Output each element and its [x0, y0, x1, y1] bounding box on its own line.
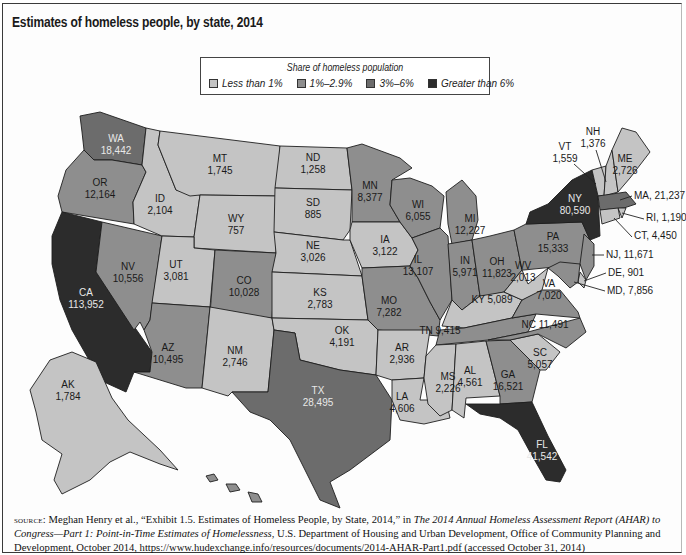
- state-abbr-nh: NH: [586, 126, 600, 137]
- state-abbr-nm: NM: [227, 345, 243, 356]
- state-abbr-wv: WV: [515, 260, 531, 271]
- state-abbr-nv: NV: [121, 261, 135, 272]
- state-value-ut: 3,081: [163, 271, 188, 282]
- state-value-ga: 16,521: [493, 381, 524, 392]
- state-hi: [206, 474, 262, 502]
- state-value-wa: 18,442: [101, 145, 132, 156]
- state-label-ky: KY 5,089: [472, 294, 513, 305]
- state-label-de: DE, 901: [608, 267, 645, 278]
- state-abbr-ut: UT: [169, 259, 182, 270]
- state-value-ny: 80,590: [560, 205, 591, 216]
- leader-line-ri: [622, 213, 644, 219]
- state-abbr-ok: OK: [335, 325, 350, 336]
- us-choropleth-map: WA18,442OR12,164CA113,952NV10,556ID2,104…: [0, 0, 686, 555]
- state-value-co: 10,028: [229, 287, 260, 298]
- state-label-md: MD, 7,856: [607, 285, 654, 296]
- source-prefix: source:: [14, 514, 46, 525]
- state-value-id: 2,104: [147, 205, 172, 216]
- state-abbr-il: IL: [414, 254, 423, 265]
- state-abbr-or: OR: [93, 177, 108, 188]
- state-value-al: 4,561: [457, 377, 482, 388]
- state-value-ca: 113,952: [68, 299, 104, 310]
- state-value-mo: 7,282: [376, 307, 401, 318]
- state-value-va: 7,020: [536, 290, 561, 301]
- state-abbr-ia: IA: [380, 234, 390, 245]
- leader-line-ct: [614, 218, 632, 237]
- state-abbr-az: AZ: [162, 342, 175, 353]
- state-value-mi: 12,227: [455, 225, 486, 236]
- state-value-ar: 2,936: [389, 354, 414, 365]
- state-value-me: 2,726: [612, 165, 637, 176]
- state-label-ma: MA, 21,237: [634, 190, 686, 201]
- state-abbr-ga: GA: [501, 369, 516, 380]
- state-value-ne: 3,026: [300, 252, 325, 263]
- state-abbr-co: CO: [237, 275, 252, 286]
- state-value-ks: 2,783: [307, 299, 332, 310]
- state-value-ak: 1,784: [55, 391, 80, 402]
- source-note: source: Meghan Henry et al., “Exhibit 1.…: [14, 513, 679, 555]
- state-label-ri: RI, 1,190: [646, 212, 686, 223]
- state-value-nv: 10,556: [113, 273, 144, 284]
- state-abbr-wa: WA: [108, 133, 124, 144]
- state-value-la: 4,606: [389, 403, 414, 414]
- state-abbr-tx: TX: [312, 385, 325, 396]
- state-value-sc: 5,057: [527, 359, 552, 370]
- state-abbr-ne: NE: [306, 240, 320, 251]
- state-abbr-vt: VT: [559, 141, 572, 152]
- state-abbr-mn: MN: [362, 180, 378, 191]
- state-value-mt: 1,745: [207, 165, 232, 176]
- state-abbr-mi: MI: [464, 213, 475, 224]
- source-text-1: Meghan Henry et al., “Exhibit 1.5. Estim…: [46, 514, 414, 525]
- state-fl: [466, 402, 566, 482]
- state-abbr-me: ME: [618, 153, 633, 164]
- state-abbr-ks: KS: [313, 287, 327, 298]
- state-value-wv: 2,013: [510, 272, 535, 283]
- state-value-az: 10,495: [153, 354, 184, 365]
- state-value-nh: 1,376: [580, 138, 605, 149]
- state-abbr-ar: AR: [395, 342, 409, 353]
- state-value-ok: 4,191: [329, 337, 354, 348]
- state-value-sd: 885: [305, 209, 322, 220]
- state-value-vt: 1,559: [552, 153, 577, 164]
- state-abbr-ak: AK: [61, 379, 75, 390]
- state-abbr-fl: FL: [536, 439, 548, 450]
- state-label-nc: NC 11,491: [521, 319, 569, 330]
- state-label-nj: NJ, 11,671: [606, 249, 654, 260]
- state-abbr-al: AL: [464, 365, 477, 376]
- state-abbr-in: IN: [460, 255, 470, 266]
- state-value-fl: 41,542: [527, 451, 558, 462]
- state-abbr-id: ID: [155, 193, 165, 204]
- state-value-nm: 2,746: [222, 357, 247, 368]
- state-value-il: 13,107: [403, 266, 434, 277]
- state-abbr-mo: MO: [381, 295, 397, 306]
- state-abbr-wy: WY: [228, 213, 244, 224]
- state-value-nd: 1,258: [300, 164, 325, 175]
- state-label-tn: TN 9,415: [419, 325, 461, 336]
- state-value-tx: 28,495: [303, 397, 334, 408]
- state-abbr-sc: SC: [533, 347, 547, 358]
- state-abbr-wi: WI: [412, 199, 424, 210]
- state-abbr-la: LA: [396, 391, 409, 402]
- state-value-ia: 3,122: [372, 246, 397, 257]
- state-value-in: 5,971: [452, 267, 477, 278]
- state-abbr-mt: MT: [213, 153, 227, 164]
- state-value-oh: 11,823: [482, 268, 512, 279]
- state-abbr-nd: ND: [306, 152, 320, 163]
- state-value-wi: 6,055: [405, 211, 430, 222]
- leader-line-md: [574, 282, 605, 291]
- state-abbr-ms: MS: [441, 371, 456, 382]
- state-abbr-va: VA: [543, 278, 556, 289]
- state-abbr-sd: SD: [306, 197, 320, 208]
- state-wy: [194, 195, 278, 253]
- state-value-wy: 757: [228, 225, 245, 236]
- state-value-mn: 8,377: [357, 192, 382, 203]
- state-abbr-oh: OH: [490, 256, 505, 267]
- state-abbr-ca: CA: [79, 287, 93, 298]
- state-abbr-pa: PA: [547, 231, 560, 242]
- state-value-or: 12,164: [85, 189, 116, 200]
- state-label-ct: CT, 4,450: [634, 230, 677, 241]
- state-value-pa: 15,333: [538, 243, 569, 254]
- state-abbr-ny: NY: [568, 193, 582, 204]
